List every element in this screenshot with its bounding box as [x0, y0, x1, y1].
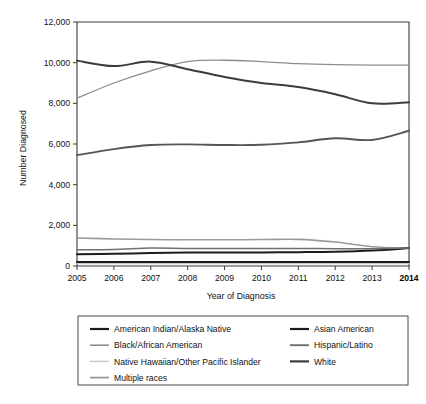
x-tick-label: 2005: [67, 273, 86, 283]
legend-label: Hispanic/Latino: [314, 340, 373, 350]
page-bleed-artifact: [2, 392, 4, 398]
y-axis-title: Number Diagnosed: [18, 110, 28, 186]
y-tick-label: 6,000: [48, 139, 70, 149]
legend-label: White: [314, 357, 336, 367]
line-chart: 02,0004,0006,0008,00010,00012,000 200520…: [0, 0, 426, 404]
chart-legend: American Indian/Alaska NativeBlack/Afric…: [78, 316, 408, 385]
y-tick-label: 4,000: [48, 180, 70, 190]
legend-label: Black/African American: [114, 340, 203, 350]
x-tick-label: 2007: [141, 273, 160, 283]
x-tick-label: 2010: [252, 273, 271, 283]
y-tick-label: 12,000: [44, 17, 71, 27]
x-tick-label: 2012: [326, 273, 345, 283]
x-tick-label: 2006: [104, 273, 123, 283]
legend-label: Native Hawaiian/Other Pacific Islander: [114, 357, 261, 367]
x-tick-label: 2008: [178, 273, 197, 283]
x-tick-label: 2014: [399, 273, 418, 283]
chart-container: 02,0004,0006,0008,00010,00012,000 200520…: [0, 0, 426, 404]
x-axis-title: Year of Diagnosis: [207, 291, 276, 301]
legend-label: Multiple races: [114, 373, 167, 383]
x-tick-label: 2013: [363, 273, 382, 283]
y-tick-label: 8,000: [48, 98, 70, 108]
legend-label: American Indian/Alaska Native: [114, 324, 231, 334]
legend-label: Asian American: [314, 324, 374, 334]
y-tick-label: 0: [65, 261, 70, 271]
legend-item-native-hawaiian-other-pacific-islander[interactable]: Native Hawaiian/Other Pacific Islander: [90, 357, 261, 367]
y-tick-label: 10,000: [44, 58, 71, 68]
y-tick-label: 2,000: [48, 220, 70, 230]
x-tick-label: 2011: [289, 273, 308, 283]
x-tick-label: 2009: [215, 273, 234, 283]
